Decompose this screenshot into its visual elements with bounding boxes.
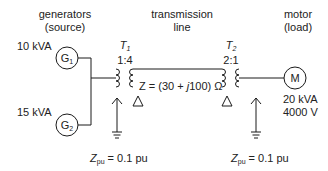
motor-rating: 20 kVA <box>283 93 318 106</box>
line-impedance-prefix: Z = (30 + <box>139 80 187 92</box>
header-motor-line2: (load) <box>276 21 320 34</box>
t1-impedance-symbol: Z <box>90 152 97 164</box>
t2-ratio: 2:1 <box>218 54 244 67</box>
generator-bus <box>78 58 91 125</box>
t2-label: T2 <box>220 39 242 55</box>
g2-rating: 15 kVA <box>17 106 52 119</box>
t2-impedance-sub: pu <box>238 158 246 165</box>
header-motor-line1: motor <box>276 8 320 21</box>
header-transmission-line1: transmission <box>146 8 218 21</box>
t2-impedance-symbol: Z <box>231 152 238 164</box>
t1-wye-ground-icon <box>112 98 122 138</box>
header-motor: motor (load) <box>276 8 320 34</box>
g2-subscript: 2 <box>69 125 73 132</box>
g1-label: G1 <box>56 52 78 68</box>
t2-wye-ground-icon <box>251 98 261 138</box>
t1-subscript: 1 <box>126 45 130 52</box>
line-impedance-suffix: 100) Ω <box>189 80 222 92</box>
t2-impedance: Zpu = 0.1 pu <box>231 152 289 168</box>
t2-secondary-coil <box>236 69 239 87</box>
header-generators-line1: generators <box>32 8 98 21</box>
g1-rating: 10 kVA <box>17 40 52 53</box>
t2-delta-icon <box>222 96 232 106</box>
t2-subscript: 2 <box>232 45 236 52</box>
t1-secondary-coil <box>130 69 134 87</box>
t1-impedance: Zpu = 0.1 pu <box>90 152 148 168</box>
t1-impedance-sub: pu <box>97 158 105 165</box>
motor-symbol: M <box>284 72 306 85</box>
g2-label: G2 <box>56 119 78 135</box>
motor-voltage: 4000 V <box>283 106 318 119</box>
g1-subscript: 1 <box>69 58 73 65</box>
header-transmission-line2: line <box>146 21 218 34</box>
t2-primary-coil <box>222 69 226 87</box>
header-transmission: transmission line <box>146 8 218 34</box>
header-generators-line2: (source) <box>32 21 98 34</box>
t1-impedance-value: = 0.1 pu <box>108 152 148 164</box>
t1-delta-icon <box>133 96 143 106</box>
t1-primary-coil <box>116 69 120 87</box>
t2-impedance-value: = 0.1 pu <box>249 152 289 164</box>
header-generators: generators (source) <box>32 8 98 34</box>
t1-ratio: 1:4 <box>112 54 138 67</box>
t1-label: T1 <box>114 39 136 55</box>
line-impedance: Z = (30 + j100) Ω <box>139 80 222 93</box>
